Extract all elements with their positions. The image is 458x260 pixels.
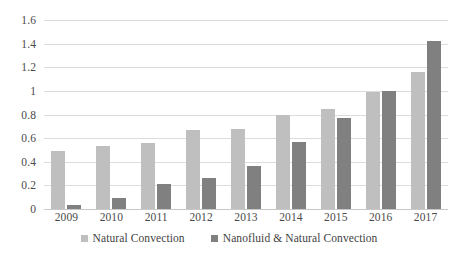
bar-2016-series0[interactable] [366,92,380,209]
chart-legend: Natural ConvectionNanofluid & Natural Co… [0,232,458,244]
y-tick-label: 0.4 [21,156,36,168]
bar-2009-series1[interactable] [67,205,81,209]
bar-group-2012 [179,20,224,209]
bar-2016-series1[interactable] [382,91,396,209]
x-tick-label: 2011 [134,211,179,229]
x-axis: 200920102011201220132014201520162017 [44,211,448,229]
gridline-0 [44,209,448,210]
bar-2012-series1[interactable] [202,178,216,209]
legend-label: Natural Convection [93,232,185,244]
plot-area [44,20,448,209]
bar-2014-series0[interactable] [276,115,290,210]
bar-2010-series1[interactable] [112,198,126,209]
x-tick-label: 2010 [89,211,134,229]
y-tick-label: 0 [30,203,36,215]
bar-group-2009 [44,20,89,209]
bar-2009-series0[interactable] [51,151,65,209]
x-tick-label: 2016 [358,211,403,229]
x-tick-label: 2015 [313,211,358,229]
bar-group-2014 [268,20,313,209]
bar-2010-series0[interactable] [96,146,110,209]
bar-2013-series0[interactable] [231,129,245,209]
bar-2013-series1[interactable] [247,166,261,209]
bar-2017-series0[interactable] [411,72,425,209]
bar-group-2016 [358,20,403,209]
bar-2015-series1[interactable] [337,118,351,209]
y-tick-label: 1.4 [21,38,36,50]
y-axis: 00.20.40.60.811.21.41.6 [0,20,40,209]
legend-item-series1[interactable]: Nanofluid & Natural Convection [211,232,378,244]
legend-item-series0[interactable]: Natural Convection [81,232,185,244]
bar-2015-series0[interactable] [321,109,335,209]
bar-group-2015 [313,20,358,209]
x-tick-label: 2009 [44,211,89,229]
bar-group-2017 [403,20,448,209]
bar-groups [44,20,448,209]
x-tick-label: 2017 [403,211,448,229]
bar-2012-series0[interactable] [186,130,200,209]
y-tick-label: 0.8 [21,109,36,121]
bar-2017-series1[interactable] [427,41,441,209]
y-tick-label: 0.2 [21,179,36,191]
legend-swatch-icon [81,235,88,242]
bar-2014-series1[interactable] [292,142,306,209]
legend-label: Nanofluid & Natural Convection [223,232,378,244]
y-tick-label: 1.6 [21,14,36,26]
bar-chart: 00.20.40.60.811.21.41.6 2009201020112012… [0,0,458,260]
y-tick-label: 1 [30,85,36,97]
bar-group-2013 [224,20,269,209]
legend-swatch-icon [211,235,218,242]
x-tick-label: 2012 [179,211,224,229]
bar-group-2011 [134,20,179,209]
x-tick-label: 2013 [224,211,269,229]
bar-2011-series1[interactable] [157,184,171,209]
y-tick-label: 1.2 [21,61,36,73]
bar-group-2010 [89,20,134,209]
x-tick-label: 2014 [268,211,313,229]
y-tick-label: 0.6 [21,132,36,144]
bar-2011-series0[interactable] [141,143,155,209]
